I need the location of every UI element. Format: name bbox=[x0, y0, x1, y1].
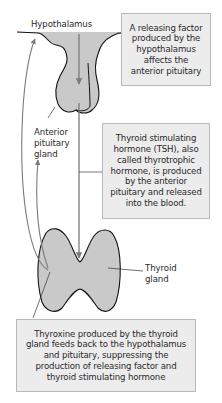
anterior-pituitary-line-1: Anterior bbox=[34, 127, 69, 138]
anterior-pituitary-line-2: pituitary bbox=[34, 138, 69, 149]
thyroid-line-1: Thyroid bbox=[145, 263, 177, 274]
hypothalamus-label: Hypothalamus bbox=[31, 19, 92, 30]
releasing-factor-line: hypothalamus bbox=[129, 44, 202, 55]
releasing-factor-line: anterior pituitary bbox=[129, 66, 202, 77]
thyroxine-box: Thyroxine produced by the thyroid gland … bbox=[16, 319, 196, 392]
releasing-factor-box: A releasing factor produced by the hypot… bbox=[121, 13, 211, 86]
tsh-box: Thyroid stimulating hormone (TSH), also … bbox=[102, 123, 210, 219]
tsh-line: by the anterior bbox=[110, 176, 201, 187]
anterior-pituitary-label: Anterior pituitary gland bbox=[34, 127, 69, 160]
thyroid-line-2: gland bbox=[145, 274, 177, 285]
anterior-pituitary-line-3: gland bbox=[34, 149, 69, 160]
thyroxine-line: Thyroxine produced by the thyroid bbox=[26, 329, 186, 340]
tsh-line: pituitary and released bbox=[110, 187, 201, 198]
tsh-line: hormone (TSH), also bbox=[110, 144, 201, 155]
releasing-factor-line: A releasing factor bbox=[129, 23, 202, 34]
tsh-line: Thyroid stimulating bbox=[110, 133, 201, 144]
thyroid-gland-label: Thyroid gland bbox=[145, 263, 177, 285]
hypothalamus-text: Hypothalamus bbox=[31, 19, 92, 29]
thyroxine-line: gland feeds back to the hypothalamus bbox=[26, 339, 186, 350]
tsh-line: into the blood. bbox=[110, 198, 201, 209]
tsh-line: hormone, is produced bbox=[110, 166, 201, 177]
releasing-factor-line: produced by the bbox=[129, 33, 202, 44]
thyroxine-line: thyroid stimulating hormone bbox=[26, 372, 186, 383]
releasing-factor-line: affects the bbox=[129, 55, 202, 66]
tsh-line: called thyrotrophic bbox=[110, 155, 201, 166]
thyroxine-line: and pituitary, suppressing the bbox=[26, 350, 186, 361]
thyroxine-line: production of releasing factor and bbox=[26, 361, 186, 372]
